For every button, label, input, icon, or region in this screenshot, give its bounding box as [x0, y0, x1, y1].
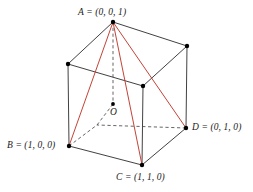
edge-A-TR — [113, 22, 187, 46]
hidden-edge-D-HID — [97, 125, 186, 128]
vertex-label-B: B = (1, 0, 0) — [7, 141, 55, 151]
edge-A-TL — [68, 22, 113, 64]
vertex-dot-B — [67, 144, 71, 148]
cube-tetrahedron-diagram — [0, 0, 253, 192]
edge-TL-B — [68, 64, 69, 146]
vertex-dot-D — [184, 126, 188, 130]
tetrahedron-edges — [69, 22, 186, 165]
vertex-label-O: O — [110, 108, 117, 118]
vertex-label-A: A = (0, 0, 1) — [78, 8, 126, 18]
edge-TR-MB — [143, 46, 187, 86]
vertex-dot-MB — [141, 84, 145, 88]
figure-container: A = (0, 0, 1) B = (1, 0, 0) C = (1, 1, 0… — [0, 0, 253, 192]
edge-TL-MB — [68, 64, 143, 86]
vertex-dot-O — [111, 102, 115, 106]
vertex-label-D: D = (0, 1, 0) — [192, 123, 241, 133]
vertex-dot-A — [111, 20, 115, 24]
edge-TR-D — [186, 46, 187, 128]
vertex-label-C: C = (1, 1, 0) — [116, 173, 165, 183]
cube-hidden-edges — [69, 22, 186, 146]
edge-MB-C — [142, 86, 143, 165]
tetra-edge-A-B — [69, 22, 113, 146]
vertex-dot-C — [140, 163, 144, 167]
vertex-dot-TL — [66, 62, 70, 66]
vertex-dot-TR — [185, 44, 189, 48]
